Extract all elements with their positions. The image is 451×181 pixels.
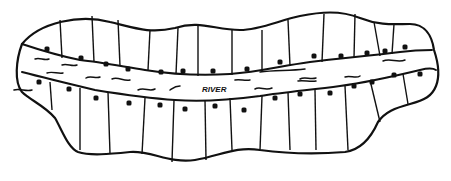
lot-divider: [403, 74, 408, 104]
house-dot: [126, 67, 131, 72]
house-dot: [278, 60, 283, 65]
lot-divider: [50, 82, 52, 110]
lot-divider: [118, 20, 120, 66]
lot-divider: [354, 14, 355, 58]
house-dot: [339, 54, 344, 59]
wave-mark: [383, 60, 405, 61]
wave-mark: [255, 88, 272, 89]
wave-mark: [62, 64, 77, 65]
wave-mark: [14, 89, 32, 90]
house-dot: [403, 45, 408, 50]
river-label: RIVER: [202, 85, 227, 94]
house-dot: [245, 67, 250, 72]
house-dot: [365, 51, 370, 56]
house-dot: [79, 56, 84, 61]
house-dot: [213, 104, 218, 109]
house-dot: [298, 92, 303, 97]
house-dot: [183, 107, 188, 112]
lot-divider: [176, 28, 178, 74]
lot-divider: [205, 100, 206, 160]
house-dot: [159, 70, 164, 75]
lot-divider: [108, 92, 110, 154]
house-dot: [418, 72, 423, 77]
house-dot: [273, 96, 278, 101]
north-house-dots: [45, 45, 408, 75]
house-dot: [45, 47, 50, 52]
house-dot: [211, 69, 216, 74]
lot-divider: [92, 16, 94, 62]
house-dot: [383, 49, 388, 54]
river-upper-bank: [22, 44, 432, 75]
lot-divider: [142, 98, 145, 154]
lot-divider: [345, 86, 348, 150]
house-dot: [37, 80, 42, 85]
lot-divider: [230, 98, 232, 150]
house-dot: [242, 108, 247, 113]
lot-divider: [370, 80, 380, 122]
lot-divider: [172, 100, 174, 162]
lot-divider: [260, 96, 262, 150]
wave-mark: [138, 89, 155, 90]
wave-mark: [235, 80, 250, 81]
house-dot: [94, 96, 99, 101]
wave-mark: [300, 78, 316, 79]
wave-mark: [298, 81, 316, 82]
house-dot: [312, 54, 317, 59]
house-dot: [67, 87, 72, 92]
wave-mark: [170, 86, 180, 90]
wave-mark: [35, 58, 49, 59]
lot-divider: [322, 14, 324, 62]
lot-divider: [374, 22, 380, 56]
river-lot-diagram: RIVER: [0, 0, 451, 181]
lot-divider: [148, 30, 150, 70]
house-dot: [104, 62, 109, 67]
north-lot-dividers: [60, 14, 394, 76]
lot-divider: [392, 24, 394, 54]
lot-divider: [315, 90, 316, 150]
house-dot: [392, 73, 397, 78]
wave-mark: [112, 78, 130, 80]
wave-mark: [47, 72, 63, 73]
house-dot: [127, 101, 132, 106]
wave-mark: [345, 76, 360, 77]
house-dot: [158, 103, 163, 108]
house-dot: [181, 69, 186, 74]
wave-mark: [86, 77, 100, 78]
lot-divider: [60, 20, 62, 58]
house-dot: [352, 84, 357, 89]
lot-divider: [288, 92, 290, 150]
house-dot: [370, 80, 375, 85]
house-dot: [328, 91, 333, 96]
lot-divider: [288, 20, 290, 66]
